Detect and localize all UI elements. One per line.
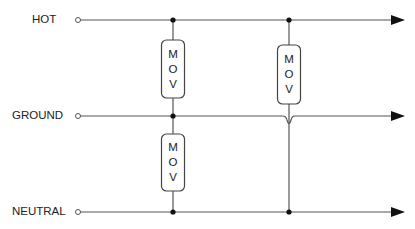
mov-letter: O [162, 62, 185, 77]
neutral-arrow-icon [391, 207, 405, 217]
mov-surge-protection-diagram: HOT GROUND NEUTRAL M O V M O V M O V [0, 0, 415, 229]
mov-letter: V [162, 77, 185, 92]
mov-letter: V [278, 82, 301, 97]
junction-dot-icon [170, 17, 175, 22]
mov-letter: O [162, 155, 185, 170]
mov-letter: M [162, 47, 185, 62]
junction-dot-icon [286, 17, 291, 22]
mov-letter: M [278, 52, 301, 67]
ground-label: GROUND [12, 110, 63, 122]
mov-letter: O [278, 67, 301, 82]
neutral-terminal-icon [76, 210, 81, 215]
junction-dot-icon [170, 113, 175, 118]
junction-dot-icon [170, 209, 175, 214]
ground-arrow-icon [391, 111, 405, 121]
mov-letter: M [162, 140, 185, 155]
mov-hot-neutral-label: M O V [278, 52, 301, 97]
mov-letter: V [162, 170, 185, 185]
mov-ground-neutral-label: M O V [162, 140, 185, 185]
hot-terminal-icon [76, 18, 81, 23]
ground-terminal-icon [76, 114, 81, 119]
hot-arrow-icon [391, 15, 405, 25]
hot-label: HOT [32, 14, 56, 26]
ground-wire [80, 116, 392, 124]
junction-dot-icon [286, 209, 291, 214]
mov-hot-ground-label: M O V [162, 47, 185, 92]
neutral-label: NEUTRAL [12, 206, 66, 218]
